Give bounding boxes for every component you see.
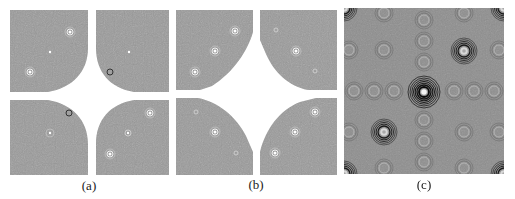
panel-c-image	[344, 8, 504, 174]
caption-a: (a)	[69, 178, 109, 194]
panel-c	[344, 8, 504, 174]
caption-c: (c)	[404, 177, 444, 193]
panel-a	[10, 10, 169, 175]
panel-a-image	[10, 10, 169, 175]
caption-b: (b)	[236, 177, 276, 193]
panel-b	[176, 10, 337, 175]
panel-b-image	[176, 10, 337, 175]
